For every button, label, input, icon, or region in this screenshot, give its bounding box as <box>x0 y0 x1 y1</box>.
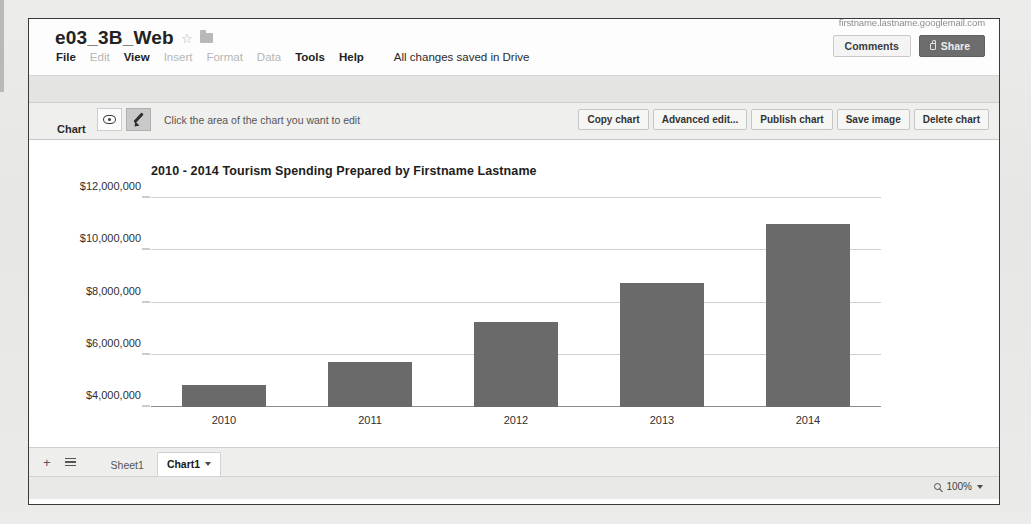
sheet-tab-chart1[interactable]: Chart1 <box>157 452 221 476</box>
menu-item-edit[interactable]: Edit <box>90 51 110 63</box>
y-axis-tick-label: $12,000,000 <box>80 180 141 192</box>
y-axis-tick-mark <box>142 197 150 198</box>
page-left-edge <box>0 0 4 92</box>
comments-button[interactable]: Comments <box>833 35 911 57</box>
menu-item-help[interactable]: Help <box>339 51 364 63</box>
menu-item-view[interactable]: View <box>124 51 150 63</box>
y-axis-tick-label: $6,000,000 <box>86 337 141 349</box>
y-axis-tick-label: $10,000,000 <box>80 232 141 244</box>
share-button-label: Share <box>941 40 970 52</box>
save-image-button[interactable]: Save image <box>837 109 910 130</box>
browser-window: firstname.lastname.googlemail.com e03_3B… <box>28 18 1000 505</box>
y-axis-tick-mark <box>142 301 150 302</box>
sheet-tab-bar: + Sheet1 Chart1 <box>29 447 999 476</box>
header-actions: Comments Share <box>833 35 985 57</box>
edit-mode-button[interactable] <box>126 108 151 131</box>
chart-editor-toolbar: Chart Click the area of the chart you wa… <box>29 103 999 140</box>
chevron-down-icon[interactable] <box>205 462 211 466</box>
zoom-chevron-down-icon[interactable] <box>977 485 983 489</box>
zoom-level-label: 100% <box>946 481 972 492</box>
editor-hint-text: Click the area of the chart you want to … <box>164 114 360 126</box>
add-sheet-button[interactable]: + <box>41 456 53 469</box>
y-axis-tick-label: $4,000,000 <box>86 389 141 401</box>
chart-bars: 20102011201220132014 <box>151 198 881 407</box>
chart-plot-area[interactable]: $4,000,000$6,000,000$8,000,000$10,000,00… <box>151 198 881 407</box>
y-axis-tick-mark <box>142 353 150 354</box>
chart-canvas[interactable]: 2010 - 2014 Tourism Spending Prepared by… <box>29 140 999 447</box>
x-axis-tick-label: 2010 <box>212 414 236 426</box>
document-title-row: e03_3B_Web ☆ <box>55 27 213 49</box>
all-sheets-icon[interactable] <box>63 456 78 468</box>
preview-mode-button[interactable] <box>97 108 122 131</box>
docs-header: firstname.lastname.googlemail.com e03_3B… <box>29 19 999 76</box>
pencil-icon <box>132 113 145 126</box>
x-axis-tick-label: 2012 <box>504 414 528 426</box>
share-button[interactable]: Share <box>919 35 985 57</box>
menu-item-file[interactable]: File <box>56 51 76 63</box>
y-axis-tick-mark <box>142 406 150 407</box>
x-axis-tick-label: 2013 <box>650 414 674 426</box>
status-bar: 100% <box>29 476 999 499</box>
chart-section-label: Chart <box>57 123 86 135</box>
y-axis-tick-label: $8,000,000 <box>86 285 141 297</box>
chart-bar[interactable] <box>474 322 557 407</box>
chart-bar-slot[interactable]: 2011 <box>297 198 443 407</box>
x-axis-tick-label: 2011 <box>358 414 382 426</box>
chart-bar[interactable] <box>620 283 703 407</box>
save-status: All changes saved in Drive <box>394 51 530 63</box>
page-title[interactable]: e03_3B_Web <box>55 27 174 49</box>
folder-icon[interactable] <box>200 33 213 43</box>
toolbar-gap-band <box>29 76 999 103</box>
y-axis-tick-mark <box>142 249 150 250</box>
eye-icon <box>103 115 116 124</box>
sheet-tab-chart1-label: Chart1 <box>167 458 200 470</box>
chart-bar[interactable] <box>328 362 411 407</box>
menu-item-insert[interactable]: Insert <box>164 51 193 63</box>
magnifier-icon <box>934 483 941 490</box>
chart-action-buttons: Copy chart Advanced edit... Publish char… <box>578 109 989 130</box>
menu-item-data[interactable]: Data <box>257 51 281 63</box>
advanced-edit-button[interactable]: Advanced edit... <box>653 109 748 130</box>
copy-chart-button[interactable]: Copy chart <box>578 109 648 130</box>
lock-icon <box>930 43 936 50</box>
x-axis-tick-label: 2014 <box>796 414 820 426</box>
star-icon[interactable]: ☆ <box>181 32 193 45</box>
chart-bar-slot[interactable]: 2012 <box>443 198 589 407</box>
sheet-tabs-group: Sheet1 Chart1 <box>102 448 222 476</box>
chart-plot-wrapper: $4,000,000$6,000,000$8,000,000$10,000,00… <box>29 140 999 447</box>
delete-chart-button[interactable]: Delete chart <box>914 109 989 130</box>
chart-bar-slot[interactable]: 2010 <box>151 198 297 407</box>
menu-bar: File Edit View Insert Format Data Tools … <box>56 51 529 63</box>
publish-chart-button[interactable]: Publish chart <box>751 109 832 130</box>
sheet-tab-sheet1[interactable]: Sheet1 <box>102 454 153 476</box>
chart-bar-slot[interactable]: 2013 <box>589 198 735 407</box>
chart-bar-slot[interactable]: 2014 <box>735 198 881 407</box>
chart-mode-toggle-group <box>97 108 151 131</box>
menu-item-format[interactable]: Format <box>206 51 242 63</box>
menu-item-tools[interactable]: Tools <box>295 51 325 63</box>
account-email[interactable]: firstname.lastname.googlemail.com <box>839 18 985 28</box>
zoom-control[interactable]: 100% <box>934 481 983 492</box>
chart-bar[interactable] <box>766 224 849 407</box>
chart-bar[interactable] <box>182 385 265 407</box>
